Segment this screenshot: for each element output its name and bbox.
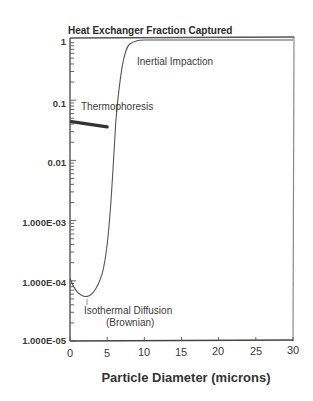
x-tick-label: 10 <box>138 346 150 358</box>
y-tick-label: 1.000E-05 <box>22 335 67 346</box>
x-tick-label: 0 <box>67 347 73 359</box>
annotation-brownian: (Brownian) <box>106 317 154 328</box>
y-axis-labels: 1.000E-05 1.000E-04 1.000E-03 0.01 0.1 1 <box>22 36 67 346</box>
y-tick-label: 0.1 <box>53 98 67 109</box>
y-tick-label: 1 <box>61 36 67 47</box>
chart-title: Heat Exchanger Fraction Captured <box>68 25 232 36</box>
annotation-isothermal-diffusion: Isothermal Diffusion <box>84 305 172 316</box>
y-tick-label: 0.01 <box>48 157 67 168</box>
x-tick-label: 15 <box>175 346 187 358</box>
plot-frame <box>70 37 294 341</box>
y-axis-ticks <box>70 43 76 341</box>
y-tick-label: 1.000E-04 <box>22 277 67 288</box>
chart: Heat Exchanger Fraction Captured 1.000E-… <box>0 0 313 401</box>
annotation-thermophoresis: Thermophoresis <box>81 101 153 112</box>
thermophoresis-line <box>71 122 107 127</box>
x-tick-label: 30 <box>287 344 299 356</box>
x-tick-label: 5 <box>104 347 110 359</box>
x-tick-label: 25 <box>250 345 262 357</box>
y-tick-label: 1.000E-03 <box>22 217 66 228</box>
x-axis-title: Particle Diameter (microns) <box>101 370 270 385</box>
total-capture-curve <box>70 40 293 297</box>
x-tick-label: 20 <box>212 345 224 357</box>
x-axis-labels: 0 5 10 15 20 25 30 <box>67 344 299 359</box>
annotation-inertial-impaction: Inertial Impaction <box>137 56 213 67</box>
